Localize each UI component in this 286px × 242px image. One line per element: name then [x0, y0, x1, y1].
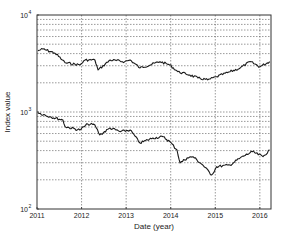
- data-series: [38, 49, 270, 176]
- y-tick-label: 10: [20, 109, 28, 116]
- y-tick-exponent: 2: [29, 203, 32, 209]
- x-tick-label: 2012: [74, 212, 90, 219]
- y-axis-label: Index value: [3, 91, 12, 132]
- x-tick-label: 2014: [163, 212, 179, 219]
- series-line: [38, 113, 270, 175]
- y-tick-label: 10: [20, 12, 28, 19]
- y-tick-label: 10: [20, 206, 28, 213]
- y-tick-exponent: 4: [29, 9, 32, 15]
- x-axis-label: Date (year): [134, 222, 174, 231]
- grid-lines: [37, 15, 271, 209]
- x-tick-label: 2013: [118, 212, 134, 219]
- x-tick-label: 2015: [207, 212, 223, 219]
- series-line: [38, 49, 270, 80]
- x-tick-label: 2011: [29, 212, 44, 219]
- y-axis-ticks: 102103104: [20, 9, 39, 213]
- x-tick-label: 2016: [252, 212, 268, 219]
- line-chart: 201120122013201420152016 102103104 Date …: [0, 0, 286, 242]
- y-tick-exponent: 3: [29, 106, 32, 112]
